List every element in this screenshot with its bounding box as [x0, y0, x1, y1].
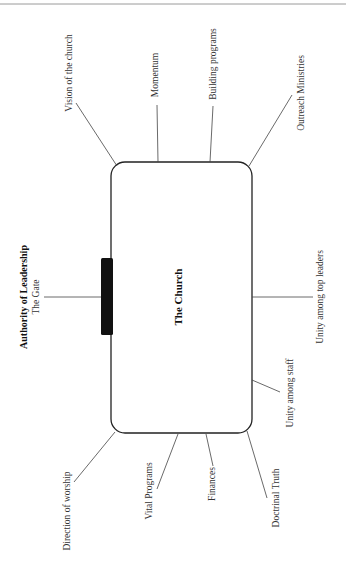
factor-label: Finances [207, 467, 217, 501]
factor-label: Unity among top leaders [315, 250, 325, 344]
factor-label: Unity among staff [285, 358, 295, 428]
gate-subtitle: The Gate [31, 279, 41, 314]
factor-vision: Vision of the church [64, 34, 117, 166]
factor-unity-staff: Unity among staff [252, 358, 295, 428]
center-label: The Church [172, 269, 184, 326]
factor-direction-of-worship: Direction of worship [62, 432, 115, 551]
factor-momentum: Momentum [150, 52, 160, 162]
gate-block [101, 258, 113, 335]
factor-label: Outreach Ministries [296, 55, 306, 131]
connector-line [252, 380, 280, 392]
church-influence-diagram: The Church Authority of Leadership The G… [0, 0, 347, 579]
gate-title: Authority of Leadership [18, 245, 29, 349]
factor-outreach-ministries: Outreach Ministries [249, 55, 306, 166]
connector-line [210, 106, 213, 162]
connector-line [206, 434, 213, 466]
factor-unity-top-leaders: Unity among top leaders [252, 250, 325, 344]
connector-line [157, 434, 178, 489]
factor-vital-programs: Vital Programs [144, 434, 178, 520]
factor-building-programs: Building programs [208, 28, 218, 162]
factor-label: Building programs [208, 28, 218, 100]
connector-line [157, 105, 158, 162]
factor-label: Momentum [150, 52, 160, 97]
connector-line [74, 432, 115, 482]
factor-label: Vital Programs [144, 462, 154, 520]
factor-label: Doctrinal Truth [271, 468, 281, 527]
connector-line [76, 103, 117, 166]
connector-line [247, 431, 267, 498]
connector-line [249, 95, 292, 166]
factor-doctrinal-truth: Doctrinal Truth [247, 431, 281, 527]
factor-finances: Finances [206, 434, 217, 501]
factor-label: Direction of worship [62, 471, 72, 550]
factor-label: Vision of the church [64, 34, 74, 112]
